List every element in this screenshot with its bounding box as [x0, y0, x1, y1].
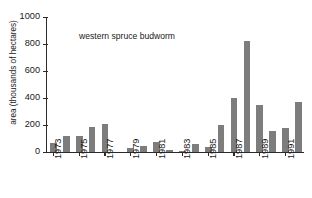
- bar-rect: [166, 150, 173, 152]
- x-tick-label: 1981: [157, 139, 167, 159]
- y-tick-label: 200: [25, 119, 40, 129]
- bar-1988: [244, 17, 251, 152]
- bar-rect: [192, 144, 199, 152]
- x-tick-label: 1985: [208, 139, 218, 159]
- y-tick-label: 0: [35, 146, 40, 156]
- bar-1990: [269, 17, 276, 152]
- y-axis-title: area (thousands of hectares): [9, 0, 18, 148]
- bar-1986: [218, 17, 225, 152]
- bar-1984: [192, 17, 199, 152]
- bar-1983: [179, 17, 186, 152]
- bar-1973: [50, 17, 57, 152]
- bar-1989: [256, 17, 263, 152]
- bar-rect: [218, 125, 225, 152]
- bar-1987: [231, 17, 238, 152]
- y-tick-label: 400: [25, 92, 40, 102]
- x-tick-label: 1987: [234, 139, 244, 159]
- x-tick-label: 1991: [286, 139, 296, 159]
- bar-1974: [63, 17, 70, 152]
- y-tick-label: 800: [25, 38, 40, 48]
- bar-rect: [269, 131, 276, 152]
- x-tick-label: 1979: [131, 139, 141, 159]
- y-tick-label: 600: [25, 65, 40, 75]
- bar-rect: [89, 127, 96, 152]
- x-tick-label: 1989: [260, 139, 270, 159]
- x-tick-label: 1975: [79, 139, 89, 159]
- bar-1992: [295, 17, 302, 152]
- bar-rect: [63, 136, 70, 152]
- bar-1985: [205, 17, 212, 152]
- bar-rect: [140, 146, 147, 152]
- bar-rect: [295, 102, 302, 152]
- y-tick-label: 1000: [20, 11, 40, 21]
- bar-chart: area (thousands of hectares) 02004006008…: [0, 0, 312, 198]
- bar-rect: [244, 41, 251, 152]
- bar-1991: [282, 17, 289, 152]
- x-tick-label: 1983: [182, 139, 192, 159]
- chart-annotation: western spruce budworm: [79, 31, 175, 41]
- x-tick-label: 1973: [53, 139, 63, 159]
- x-tick-label: 1977: [105, 139, 115, 159]
